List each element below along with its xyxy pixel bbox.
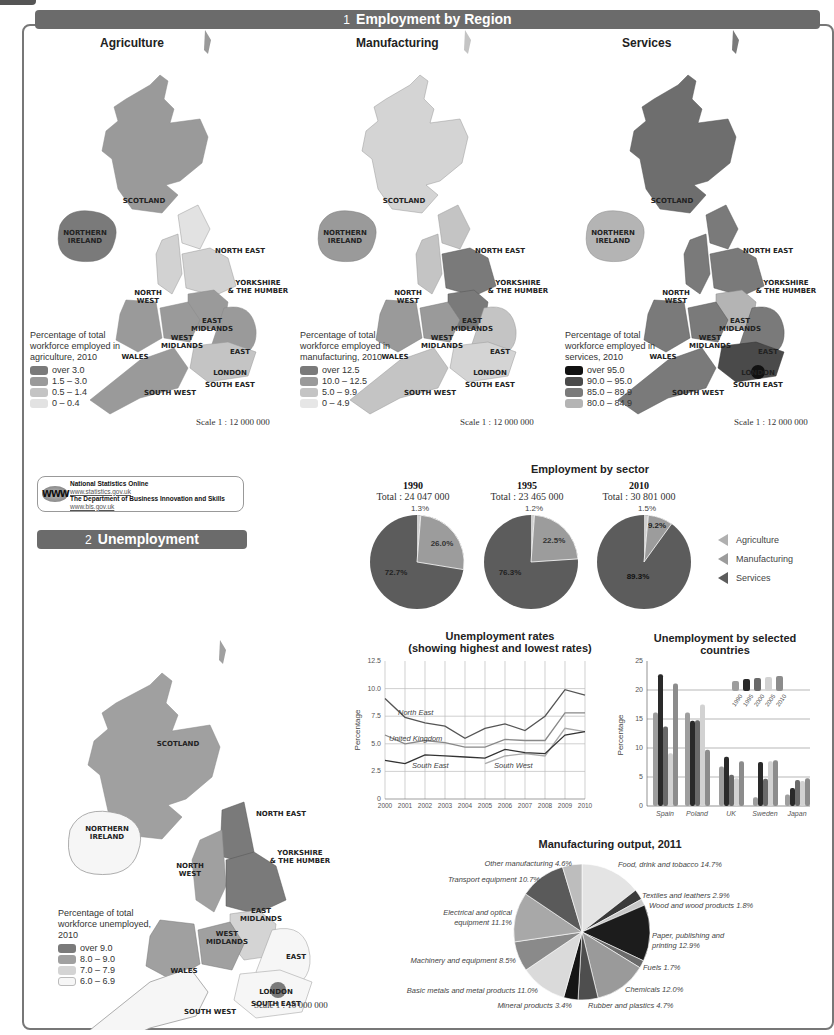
slice-label: Paper, publishing and <box>652 931 725 940</box>
label-scotland: SCOTLAND <box>651 197 694 205</box>
legend-item: 90.0 – 95.0 <box>565 376 665 387</box>
legend-item: 85.0 – 89.9 <box>565 387 665 398</box>
label-yorkshire-1: YORKSHIRE <box>234 279 280 287</box>
label-east: EAST <box>286 953 306 961</box>
legend-swatch <box>300 399 318 408</box>
legend-item: 1.5 – 3.0 <box>30 376 130 387</box>
label-yorkshire-1: YORKSHIRE <box>494 279 540 287</box>
label-ni-1: NORTHERN <box>63 229 107 237</box>
label-north-west-2: WEST <box>179 870 202 878</box>
label-north-west-1: NORTH <box>134 289 162 297</box>
legend-item: 8.0 – 9.0 <box>58 954 153 965</box>
legend-label: Agriculture <box>736 535 779 545</box>
legend-label: 90.0 – 95.0 <box>587 376 632 387</box>
section-1-banner: 1Employment by Region <box>35 10 820 29</box>
map-scale-services: Scale 1 : 12 000 000 <box>734 417 808 427</box>
label-east-midlands-1: EAST <box>251 907 271 915</box>
legend-title: Percentage of total workforce employed i… <box>565 330 665 363</box>
y-tick: 12.5 <box>367 657 381 664</box>
series-label: United Kingdom <box>389 734 442 743</box>
label-west-midlands-2: MIDLANDS <box>161 342 203 350</box>
bar-group-uk <box>719 757 744 806</box>
x-tick: Japan <box>786 810 806 818</box>
legend-title: Percentage of total workforce employed i… <box>30 330 130 363</box>
employment-sector-pies: 1.3% 26.0% 72.7% 1.2% 22.5% 76.3% 1.5% 9… <box>360 505 705 615</box>
y-tick: 5.0 <box>371 740 381 747</box>
link-url-bis[interactable]: www.bis.gov.uk <box>70 503 225 511</box>
label-scotland: SCOTLAND <box>123 197 166 205</box>
section-title: Employment by Region <box>356 11 512 27</box>
pie-header-1990: 1990Total : 24 047 000 <box>368 480 458 502</box>
label-london: LONDON <box>473 369 507 377</box>
label-ni-1: NORTHERN <box>323 229 367 237</box>
legend-label: 1.5 – 3.0 <box>52 376 87 387</box>
series-label: South West <box>494 761 534 770</box>
triangle-icon <box>718 572 728 584</box>
label-yorkshire-2: & THE HUMBER <box>488 287 549 295</box>
slice-label: Machinery and equipment 8.5% <box>411 956 517 965</box>
y-tick: 2.5 <box>371 767 381 774</box>
legend-label: 8.0 – 9.0 <box>80 954 115 965</box>
legend-agriculture: Percentage of total workforce employed i… <box>30 330 130 409</box>
label-west-midlands-1: WEST <box>699 334 722 342</box>
legend-label: over 9.0 <box>80 943 113 954</box>
y-tick: 10 <box>635 744 643 751</box>
label-ni-2: IRELAND <box>596 237 631 245</box>
legend-label: 0.5 – 1.4 <box>52 387 87 398</box>
legend-swatch <box>300 388 318 397</box>
legend-swatch <box>565 377 583 386</box>
label-west-midlands-2: MIDLANDS <box>206 938 248 946</box>
label-east-midlands-1: EAST <box>462 317 482 325</box>
label-south-east: SOUTH EAST <box>465 381 515 389</box>
pie-total: Total : 24 047 000 <box>376 491 449 502</box>
y-tick: 7.5 <box>371 712 381 719</box>
legend-swatch <box>58 977 76 986</box>
legend-item: 0 – 4.9 <box>300 398 400 409</box>
pie-label: 76.3% <box>499 568 522 577</box>
pie-year: 1995 <box>482 480 572 491</box>
label-east: EAST <box>230 348 250 356</box>
triangle-icon <box>718 534 728 546</box>
chart-subtitle: (showing highest and lowest rates) <box>400 642 600 654</box>
y-tick: 0 <box>377 795 381 802</box>
legend-swatch <box>30 377 48 386</box>
slice-label: Fuels 1.7% <box>643 963 681 972</box>
x-tick: 2002 <box>418 802 433 809</box>
pie-label: 89.3% <box>627 572 650 581</box>
slice-label: Electrical and optical <box>443 908 512 917</box>
legend-item: over 95.0 <box>565 365 665 376</box>
label-south-east: SOUTH EAST <box>733 381 783 389</box>
section-number: 1 <box>343 13 350 27</box>
bar-legend: 1990 1995 2000 2005 2010 <box>731 676 788 708</box>
bar-group-spain <box>653 674 678 806</box>
legend-title: Percentage of total workforce unemployed… <box>58 908 153 941</box>
bar-chart-unemployment-countries: 0 5 10 15 20 25 Percentage <box>615 655 820 820</box>
bar-group-sweden <box>753 760 778 806</box>
slice-label: Chemicals 12.0% <box>625 985 684 994</box>
link-url-statistics[interactable]: www.statistics.gov.uk <box>70 488 225 496</box>
pie-manufacturing-output: Food, drink and tobacco 14.7% Textiles a… <box>400 852 820 1022</box>
label-london: LONDON <box>213 369 247 377</box>
line-chart-unemployment-rates: 0 2.5 5.0 7.5 10.0 12.5 Percentage 2000 … <box>350 655 620 810</box>
label-south-west: SOUTH WEST <box>184 1008 236 1016</box>
label-south-west: SOUTH WEST <box>144 389 196 397</box>
pie-label: 72.7% <box>385 568 408 577</box>
bar-group-poland <box>685 705 710 807</box>
label-east-midlands-2: MIDLANDS <box>191 325 233 333</box>
pie-year: 1990 <box>368 480 458 491</box>
legend-item: Services <box>718 568 793 587</box>
chart-title-manufacturing-output: Manufacturing output, 2011 <box>510 838 710 850</box>
pie-1990: 1.3% 26.0% 72.7% <box>370 505 464 609</box>
label-ni-2: IRELAND <box>90 833 125 841</box>
legend-item: 5.0 – 9.9 <box>300 387 400 398</box>
section-number: 2 <box>85 533 92 547</box>
pie-header-1995: 1995Total : 23 465 000 <box>482 480 572 502</box>
x-tick: 2006 <box>498 802 513 809</box>
legend-swatch <box>30 388 48 397</box>
slice-label: Other manufacturing 4.6% <box>484 859 572 868</box>
legend-swatch <box>30 399 48 408</box>
chart-title-line1: Unemployment rates <box>400 630 600 642</box>
slice-label: Transport equipment 10.7% <box>448 875 540 884</box>
label-west-midlands-1: WEST <box>171 334 194 342</box>
label-east: EAST <box>758 348 778 356</box>
